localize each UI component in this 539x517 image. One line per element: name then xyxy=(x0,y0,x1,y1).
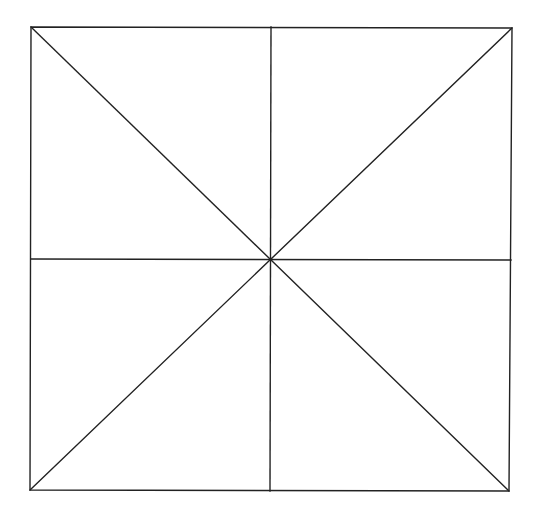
center-point xyxy=(270,258,272,260)
square-diagram xyxy=(0,0,539,517)
